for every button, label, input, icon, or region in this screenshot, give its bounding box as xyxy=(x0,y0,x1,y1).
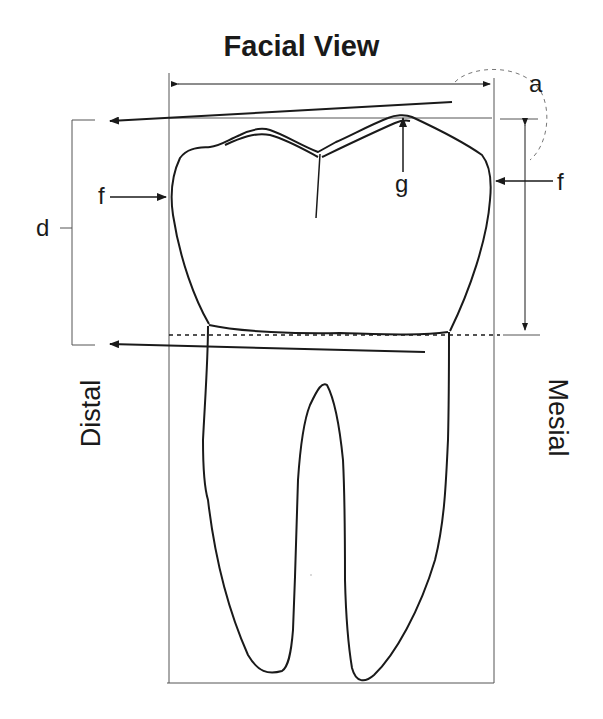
crown-height-bracket xyxy=(60,120,95,345)
cervical-line-arrow xyxy=(110,344,425,352)
label-f-left: f xyxy=(98,184,105,208)
label-g: g xyxy=(395,172,408,196)
tooth-diagram xyxy=(0,0,603,719)
label-f-right: f xyxy=(557,170,564,194)
label-a: a xyxy=(529,72,542,96)
distal-root-outline xyxy=(203,326,449,680)
label-distal: Distal xyxy=(76,380,107,448)
crown-length-dimension xyxy=(500,119,540,335)
bounding-box xyxy=(167,73,494,683)
cervical-line xyxy=(209,325,448,334)
buccal-groove xyxy=(316,154,320,218)
label-mesial: Mesial xyxy=(542,378,573,456)
label-d: d xyxy=(36,216,49,240)
crown-outline xyxy=(172,115,491,331)
image-speck xyxy=(310,574,312,576)
crown-ridge-right xyxy=(322,121,410,157)
